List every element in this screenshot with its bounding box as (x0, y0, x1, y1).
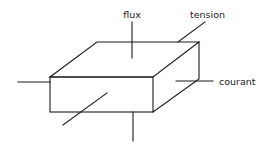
front-face (50, 77, 153, 112)
tension-terminal-line (178, 22, 205, 42)
top-face (50, 42, 199, 77)
flux-label: flux (123, 9, 141, 20)
tension-label: tension (190, 9, 225, 20)
box (50, 42, 199, 112)
terminals (18, 22, 213, 141)
labels: flux tension courant (123, 9, 256, 87)
right-face (153, 42, 199, 112)
front-diagonal-terminal-line (63, 93, 107, 125)
courant-label: courant (219, 76, 256, 87)
box-diagram: flux tension courant (0, 0, 269, 145)
